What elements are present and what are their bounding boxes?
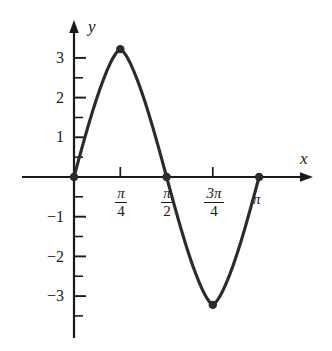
- y-tick-label-neg3: −3: [32, 288, 64, 304]
- y-axis-arrowhead: [69, 20, 79, 33]
- fraction-denominator: 2: [161, 203, 173, 219]
- fraction-pi-over-2: π 2: [161, 186, 173, 220]
- y-tick-label-neg1: −1: [32, 209, 64, 225]
- fraction-numerator: π: [115, 186, 127, 203]
- y-tick-label-neg2: −2: [32, 249, 64, 265]
- x-tick-label-3pi-over-4: 3π 4: [193, 186, 235, 220]
- y-tick-label-3: 3: [38, 50, 64, 66]
- x-axis-arrowhead: [300, 172, 313, 182]
- sine-graph-figure: y x 3 2 1 −1 −2 −3 π 4 π 2 3π 4 π: [0, 0, 332, 351]
- x-tick-label-pi: π: [253, 192, 277, 207]
- fraction-pi-over-4: π 4: [115, 186, 127, 220]
- y-tick-label-1: 1: [38, 129, 64, 145]
- fraction-denominator: 4: [204, 203, 223, 219]
- y-axis-label: y: [88, 18, 96, 35]
- point-minimum: [209, 301, 217, 309]
- point-origin-zero: [70, 173, 78, 181]
- point-end-zero: [255, 173, 263, 181]
- x-axis-label: x: [300, 150, 308, 167]
- fraction-numerator: 3π: [204, 186, 223, 203]
- y-axis-minor-ticks: [74, 78, 83, 316]
- y-tick-label-2: 2: [38, 90, 64, 106]
- x-tick-label-pi-over-2: π 2: [151, 186, 183, 220]
- fraction-numerator: π: [161, 186, 173, 203]
- fraction-3pi-over-4: 3π 4: [204, 186, 223, 220]
- x-tick-label-pi-over-4: π 4: [104, 186, 138, 220]
- point-maximum: [116, 45, 124, 53]
- pi-symbol: π: [253, 191, 261, 207]
- point-mid-zero: [162, 173, 170, 181]
- fraction-denominator: 4: [115, 203, 127, 219]
